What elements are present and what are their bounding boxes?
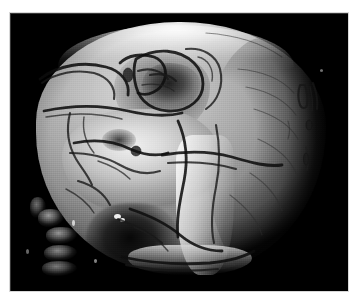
bright-speck <box>94 259 97 263</box>
cervical-vertebra-fragment <box>46 227 77 245</box>
cervical-vertebra-fragment <box>44 245 77 262</box>
cervical-vertebra-fragment <box>38 209 64 228</box>
render-caption <box>0 0 1 1</box>
bright-speck <box>320 69 323 72</box>
bright-speck <box>26 249 29 254</box>
skull-volume[interactable] <box>10 13 348 291</box>
render-frame[interactable] <box>10 13 348 291</box>
bright-speck <box>72 220 75 226</box>
bright-speck <box>120 218 125 222</box>
ct-volume-viewer <box>0 0 356 303</box>
nasal-aperture-void <box>102 129 136 151</box>
mandible-body <box>128 245 252 275</box>
cervical-vertebra-fragment <box>42 261 77 277</box>
